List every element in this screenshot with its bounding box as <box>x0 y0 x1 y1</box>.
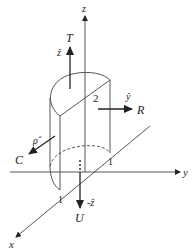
z-axis-label: z <box>81 3 86 14</box>
radius-x-label: 1 <box>58 194 63 205</box>
right-normal-label: ŷ <box>125 91 131 102</box>
curved-surface-label: C <box>15 153 24 167</box>
half-cylinder-diagram: 2 1 1 z y x T ẑ R ŷ C ρ̂ U -ẑ <box>0 0 193 252</box>
curved-normal-label: ρ̂ <box>32 135 42 146</box>
right-surface-label: R <box>136 103 145 117</box>
y-axis-label: y <box>182 166 188 178</box>
radius-y-label: 1 <box>108 156 113 167</box>
top-normal-label: ẑ <box>56 47 61 58</box>
top-surface-label: T <box>66 31 74 45</box>
bottom-hidden-arc <box>50 146 110 166</box>
bottom-visible-arc <box>50 166 60 190</box>
bottom-normal-label: -ẑ <box>87 197 94 208</box>
height-label: 2 <box>93 92 99 104</box>
bottom-surface-label: U <box>75 211 85 225</box>
x-axis-label: x <box>8 238 14 250</box>
